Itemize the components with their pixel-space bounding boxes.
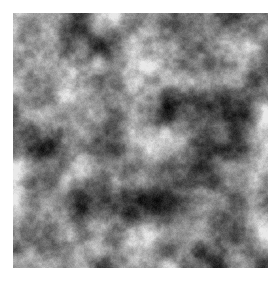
noise-texture-region: [13, 13, 268, 268]
image-viewport: [0, 0, 280, 281]
noise-texture-canvas: [13, 13, 268, 268]
